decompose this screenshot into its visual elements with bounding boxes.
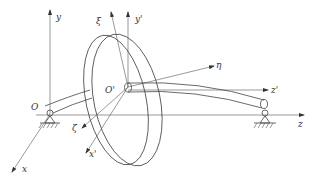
label-xi: ξ: [96, 16, 102, 26]
label-z-prime: z': [270, 85, 278, 95]
shaft-left: [45, 90, 92, 113]
label-y: y: [55, 12, 62, 22]
label-z: z: [297, 119, 303, 129]
x-prime-axis: [86, 87, 128, 153]
left-pin-support: [39, 110, 60, 128]
label-zeta: ζ: [72, 123, 78, 133]
label-eta: η: [216, 60, 222, 70]
label-o-prime: O': [105, 85, 115, 95]
rotor-diagram: y ξ y' η z' O' O ζ x' x z: [0, 0, 314, 181]
label-o: O: [31, 102, 39, 112]
label-x: x: [22, 164, 27, 174]
right-pin-support: [254, 110, 276, 128]
disk: [73, 28, 173, 173]
label-y-prime: y': [134, 14, 143, 24]
label-x-prime: x': [89, 149, 97, 159]
xi-axis: [111, 12, 128, 87]
